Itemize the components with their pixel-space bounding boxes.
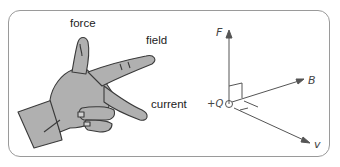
diagram-canvas <box>0 0 340 167</box>
axis-label-F: F <box>216 26 222 39</box>
charge-label: +Q <box>207 98 223 109</box>
left-hand-icon <box>18 38 155 149</box>
velocity-arrowhead-icon <box>301 137 310 143</box>
field-label: field <box>146 34 167 46</box>
axis-label-B: B <box>308 74 316 87</box>
vector-axes <box>226 30 311 143</box>
force-arrowhead-icon <box>226 30 232 38</box>
current-label: current <box>151 98 187 110</box>
field-arrowhead-icon <box>296 79 304 84</box>
velocity-vector <box>234 108 308 142</box>
force-label: force <box>70 17 96 29</box>
right-angle-marker <box>229 83 242 98</box>
axis-label-v: v <box>314 138 321 151</box>
